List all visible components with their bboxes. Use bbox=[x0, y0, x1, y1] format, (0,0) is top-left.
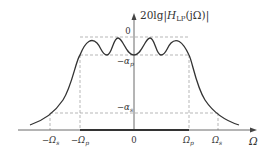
x-tick-neg-omega-s: −Ωs bbox=[42, 135, 59, 146]
x-tick-neg-omega-p: −Ωp bbox=[71, 135, 89, 147]
y-tick-alpha-p: −αp bbox=[117, 56, 134, 68]
x-tick-omega-s: Ωs bbox=[211, 135, 222, 146]
y-axis-label: 20lg|HLP(jΩ)| bbox=[140, 9, 209, 23]
y-tick-alpha-s: −αs bbox=[117, 102, 133, 113]
response-curve bbox=[30, 38, 239, 125]
x-axis-label: Ω bbox=[248, 135, 258, 147]
x-tick-zero: 0 bbox=[131, 135, 136, 145]
y-tick-zero: 0 bbox=[125, 26, 130, 36]
x-tick-omega-p: Ωp bbox=[182, 135, 194, 147]
filter-response-diagram: 20lg|HLP(jΩ)| 0 −αp −αs −Ωs −Ωp 0 Ωp Ωs … bbox=[0, 0, 273, 154]
axes bbox=[18, 13, 257, 133]
x-axis-arrow-icon bbox=[250, 128, 257, 133]
y-axis-arrow-icon bbox=[132, 13, 137, 20]
